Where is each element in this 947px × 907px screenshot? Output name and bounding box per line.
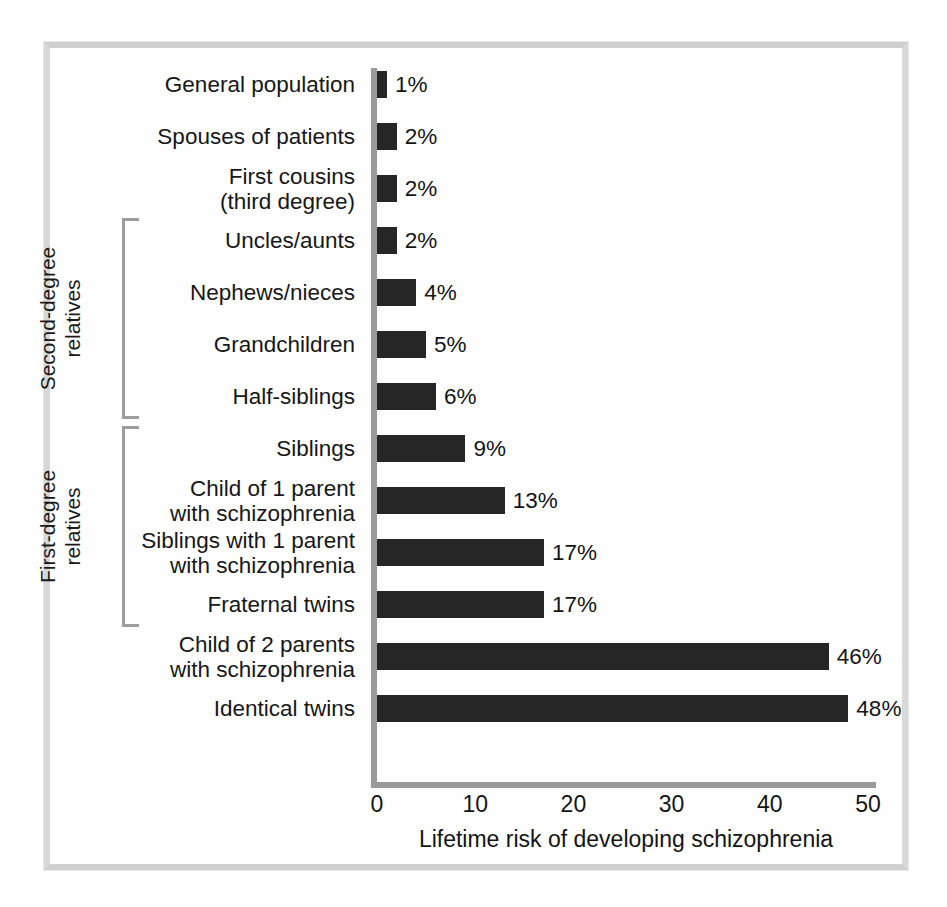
bar xyxy=(377,435,465,462)
category-label: Identical twins xyxy=(55,696,355,721)
bar-row: General population1% xyxy=(0,71,947,123)
bar-row: Child of 2 parents with schizophrenia46% xyxy=(0,643,947,695)
bar-value-label: 2% xyxy=(405,175,438,202)
bar-value-label: 2% xyxy=(405,227,438,254)
bar xyxy=(377,123,397,150)
bar-value-label: 48% xyxy=(856,695,901,722)
bar-value-label: 1% xyxy=(395,71,428,98)
group-bracket-label: First-degree relatives xyxy=(0,422,160,632)
bar-row: Identical twins48% xyxy=(0,695,947,747)
x-tick-label: 20 xyxy=(543,791,603,818)
bar xyxy=(377,591,544,618)
bar-value-label: 6% xyxy=(444,383,477,410)
x-tick-label: 50 xyxy=(838,791,898,818)
bar-value-label: 17% xyxy=(552,591,597,618)
x-axis-title: Lifetime risk of developing schizophreni… xyxy=(371,826,881,853)
group-bracket-label: Second-degree relatives xyxy=(0,214,160,424)
bar xyxy=(377,539,544,566)
bar-value-label: 2% xyxy=(405,123,438,150)
category-label: General population xyxy=(55,72,355,97)
category-label: Child of 2 parents with schizophrenia xyxy=(55,632,355,682)
bar xyxy=(377,175,397,202)
bar xyxy=(377,695,848,722)
x-tick-label: 10 xyxy=(445,791,505,818)
bar-value-label: 17% xyxy=(552,539,597,566)
bar-value-label: 46% xyxy=(837,643,882,670)
x-tick-label: 40 xyxy=(740,791,800,818)
bar-value-label: 9% xyxy=(473,435,506,462)
bar xyxy=(377,383,436,410)
group-bracket-label-text: Second-degree relatives xyxy=(0,214,160,424)
bar xyxy=(377,331,426,358)
category-label: First cousins (third degree) xyxy=(55,164,355,214)
bar xyxy=(377,487,505,514)
bar xyxy=(377,279,416,306)
x-axis-line xyxy=(371,782,876,788)
category-label: Spouses of patients xyxy=(55,124,355,149)
bar xyxy=(377,643,829,670)
bar xyxy=(377,71,387,98)
bar-value-label: 5% xyxy=(434,331,467,358)
bar-value-label: 4% xyxy=(424,279,457,306)
group-bracket-label-text: First-degree relatives xyxy=(0,422,160,632)
x-tick-label: 30 xyxy=(642,791,702,818)
x-tick-label: 0 xyxy=(347,791,407,818)
bar-value-label: 13% xyxy=(513,487,558,514)
figure: General population1%Spouses of patients2… xyxy=(0,0,947,907)
bar xyxy=(377,227,397,254)
